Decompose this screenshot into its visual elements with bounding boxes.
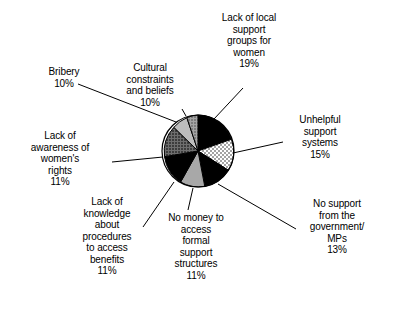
slice-label-bribery: Bribery 10% [30,66,98,89]
leader-line-cultural-constraints [182,109,186,116]
slice-label-no-money-to-access: No money to access formal support struct… [152,212,240,281]
leader-line-unhelpful-support-systems [233,142,283,153]
slice-label-lack-of-awareness: Lack of awareness of women's rights 11% [14,130,106,188]
pie-chart-figure: Lack of local support groups for women 1… [0,0,396,310]
slice-label-lack-of-knowledge: Lack of knowledge about procedures to ac… [68,196,146,277]
slice-label-lack-of-local-support-groups: Lack of local support groups for women 1… [206,12,292,70]
leader-line-lack-of-local-support-groups [214,88,243,119]
slice-label-cultural-constraints: Cultural constraints and beliefs 10% [108,62,192,108]
slice-label-no-support-from-government: No support from the government/ MPs 13% [292,198,382,256]
slice-label-unhelpful-support-systems: Unhelpful support systems 15% [278,114,362,160]
leader-line-no-money-to-access [188,188,193,210]
leader-line-lack-of-awareness [112,157,163,162]
